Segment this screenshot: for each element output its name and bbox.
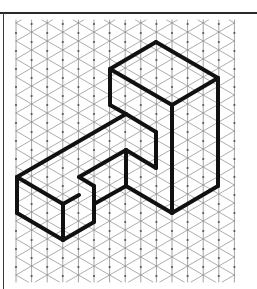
isometric-diagram	[0, 0, 257, 289]
